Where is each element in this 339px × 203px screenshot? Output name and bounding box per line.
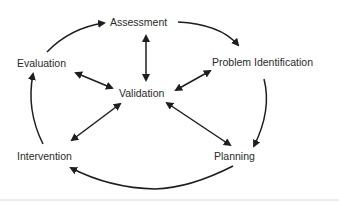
arrow-evaluation-to-assessment: [47, 23, 104, 52]
node-validation: Validation: [119, 87, 164, 99]
node-planning: Planning: [214, 150, 255, 162]
spoke-intervention-validation: [72, 104, 120, 140]
node-intervention: Intervention: [17, 150, 72, 162]
nursing-process-diagram: Assessment Problem Identification Planni…: [0, 0, 339, 203]
spoke-planning-validation: [167, 103, 230, 145]
spoke-problem-identification-validation: [176, 71, 210, 90]
arrow-assessment-to-problem-identification: [178, 22, 238, 45]
node-problem-identification: Problem Identification: [212, 56, 313, 68]
arrow-planning-to-intervention: [71, 166, 233, 189]
arrow-problem-identification-to-planning: [254, 79, 266, 146]
spoke-evaluation-validation: [76, 73, 112, 88]
node-evaluation: Evaluation: [17, 57, 66, 69]
arrow-intervention-to-evaluation: [31, 74, 43, 144]
node-assessment: Assessment: [110, 16, 167, 28]
